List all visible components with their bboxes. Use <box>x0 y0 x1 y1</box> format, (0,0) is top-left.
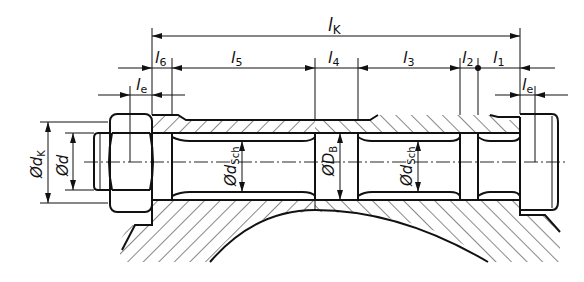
length-labels: lK l6 l5 l4 l3 l2 l1 le le <box>136 15 533 96</box>
bolt-joint-drawing: lK l6 l5 l4 l3 l2 l1 le le ØdK Ød ØdSch … <box>0 0 584 282</box>
label-le-left: le <box>136 75 147 96</box>
label-d: Ød <box>54 154 72 177</box>
label-l3: l3 <box>403 48 414 69</box>
label-l6: l6 <box>155 48 166 69</box>
label-dSch-left: ØdSch <box>222 146 241 187</box>
label-l2: l2 <box>462 48 473 69</box>
label-le-right: le <box>522 75 533 96</box>
label-DB: ØDB <box>320 146 339 177</box>
label-l4: l4 <box>328 48 339 69</box>
label-dSch-right: ØdSch <box>398 146 417 187</box>
upper-component-section <box>152 115 520 133</box>
label-l5: l5 <box>231 48 242 69</box>
lower-component-section <box>120 200 560 262</box>
nut <box>94 114 153 212</box>
label-l1: l1 <box>493 48 504 69</box>
label-lK: lK <box>328 15 342 37</box>
label-dK: ØdK <box>28 150 47 179</box>
l2-dot-marker <box>475 65 481 71</box>
